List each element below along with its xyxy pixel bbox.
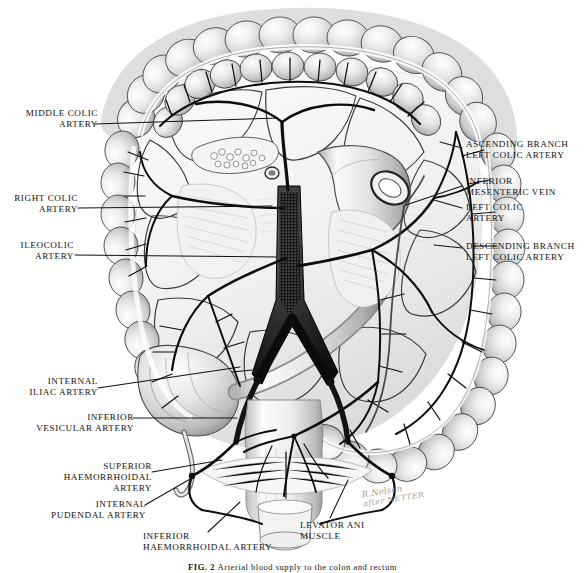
figure-caption-text: Arterial blood supply to the colon and r…	[218, 562, 397, 572]
label-internal-pudendal-artery: INTERNAL PUDENDAL ARTERY	[20, 499, 146, 521]
label-levator-ani-muscle: LEVATOR ANI MUSCLE	[300, 520, 390, 542]
label-inferior-vesicular-artery: INFERIOR VESICULAR ARTERY	[6, 412, 134, 434]
label-inferior-mesenteric-vein: INFERIOR MESENTERIC VEIN	[466, 176, 584, 198]
figure-caption: FIG. 2 Arterial blood supply to the colo…	[0, 562, 585, 572]
label-internal-iliac-artery: INTERNAL ILIAC ARTERY	[6, 376, 98, 398]
label-middle-colic-artery: MIDDLE COLIC ARTERY	[6, 108, 98, 130]
label-superior-haemorrhoidal-artery: SUPERIOR HAEMORRHOIDAL ARTERY	[36, 461, 152, 495]
anatomical-plate: MIDDLE COLIC ARTERY RIGHT COLIC ARTERY I…	[0, 0, 585, 573]
label-inferior-haemorrhoidal-artery: INFERIOR HAEMORRHOIDAL ARTERY	[143, 531, 313, 553]
figure-number: FIG. 2	[188, 562, 215, 572]
label-right-colic-artery: RIGHT COLIC ARTERY	[6, 193, 78, 215]
label-ascending-branch-left-colic-artery: ASCENDING BRANCH LEFT COLIC ARTERY	[466, 139, 584, 161]
label-descending-branch-left-colic-artery: DESCENDING BRANCH LEFT COLIC ARTERY	[466, 241, 584, 263]
label-left-colic-artery: LEFT COLIC ARTERY	[466, 202, 576, 224]
label-ileocolic-artery: ILEOCOLIC ARTERY	[6, 240, 74, 262]
